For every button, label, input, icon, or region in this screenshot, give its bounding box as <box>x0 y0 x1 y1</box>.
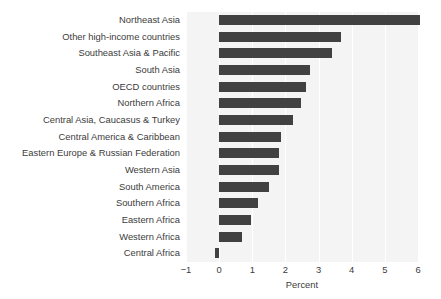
bar-row <box>186 62 418 79</box>
bar-row <box>186 112 418 129</box>
x-axis-ticks: −10123456 <box>186 262 418 278</box>
category-label: Southeast Asia & Pacific <box>0 45 180 62</box>
x-tick-label: 4 <box>337 264 367 275</box>
category-label: Northeast Asia <box>0 12 180 29</box>
x-tick-label: −1 <box>171 264 201 275</box>
x-tick-label: 1 <box>237 264 267 275</box>
bar <box>219 182 269 192</box>
category-label: Central Asia, Caucasus & Turkey <box>0 112 180 129</box>
bar <box>219 65 310 75</box>
category-axis-labels: Northeast AsiaOther high-income countrie… <box>0 12 180 262</box>
x-tick-label: 5 <box>370 264 400 275</box>
x-tick-label: 2 <box>270 264 300 275</box>
bar <box>219 165 279 175</box>
bar <box>219 198 257 208</box>
bar <box>219 232 242 242</box>
bar <box>219 215 251 225</box>
category-label: OECD countries <box>0 79 180 96</box>
x-axis-title: Percent <box>186 279 418 290</box>
bar <box>219 15 420 25</box>
x-tick-label: 0 <box>204 264 234 275</box>
bar-row <box>186 162 418 179</box>
bar-row <box>186 195 418 212</box>
bar-row <box>186 29 418 46</box>
bar-row <box>186 229 418 246</box>
bar-row <box>186 95 418 112</box>
category-label: Central Africa <box>0 245 180 262</box>
plot-area <box>186 12 418 262</box>
gridline <box>418 12 419 262</box>
bar <box>219 48 332 58</box>
category-label: Eastern Europe & Russian Federation <box>0 145 180 162</box>
x-tick-label: 6 <box>403 264 433 275</box>
bar-row <box>186 212 418 229</box>
category-label: Southern Africa <box>0 195 180 212</box>
category-label: Other high-income countries <box>0 29 180 46</box>
bar <box>219 115 293 125</box>
bar-row <box>186 179 418 196</box>
category-label: Eastern Africa <box>0 212 180 229</box>
bar <box>219 32 341 42</box>
bar-row <box>186 145 418 162</box>
category-label: Western Africa <box>0 229 180 246</box>
bar <box>219 148 279 158</box>
x-tick-label: 3 <box>304 264 334 275</box>
category-label: Central America & Caribbean <box>0 129 180 146</box>
category-label: South America <box>0 179 180 196</box>
category-label: Western Asia <box>0 162 180 179</box>
category-label: South Asia <box>0 62 180 79</box>
bar-chart: Northeast AsiaOther high-income countrie… <box>0 0 441 299</box>
bar-row <box>186 79 418 96</box>
bar <box>219 98 301 108</box>
category-label: Northern Africa <box>0 95 180 112</box>
bar-row <box>186 45 418 62</box>
bar <box>219 132 281 142</box>
bar <box>219 82 306 92</box>
bar-row <box>186 12 418 29</box>
bar-row <box>186 129 418 146</box>
bar <box>215 248 219 258</box>
bar-row <box>186 245 418 262</box>
